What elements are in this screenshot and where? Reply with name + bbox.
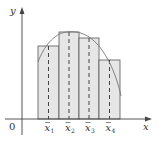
midpoint-label-1: x 1 [45,122,55,134]
x-axis-label: x [143,121,149,132]
y-axis-arrow-icon [20,7,25,14]
midpoint-label-3: x 3 [85,122,95,134]
svg-text:4: 4 [112,127,116,134]
rectangle-3 [79,38,99,119]
svg-text:2: 2 [71,127,75,134]
y-axis-label: y [9,5,16,16]
origin-label: 0 [9,121,15,132]
rectangles [38,32,120,119]
svg-text:3: 3 [91,127,95,134]
midpoint-label-2: x 2 [65,122,75,134]
midpoint-label-4: x 4 [106,122,116,134]
svg-text:1: 1 [51,127,55,134]
midpoint-diagram: y x 0 x 1 x 2 x 3 x 4 [0,0,158,142]
